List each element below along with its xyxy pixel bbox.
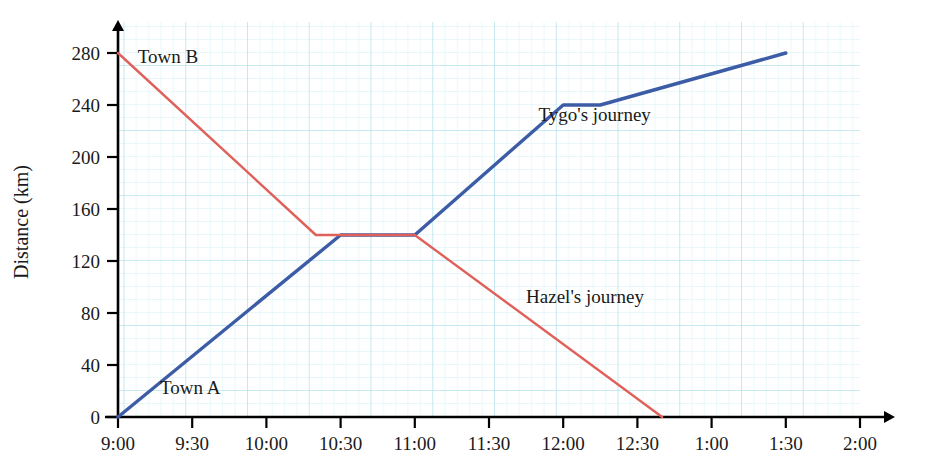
distance-time-chart: 04080120160200240280 9:009:3010:0010:301… xyxy=(0,0,925,472)
y-tick-label: 40 xyxy=(81,355,100,376)
plot-grid xyxy=(118,22,860,417)
y-axis-title: Distance (km) xyxy=(10,165,33,279)
y-tick-label: 120 xyxy=(72,251,101,272)
y-tick-label: 280 xyxy=(72,43,101,64)
x-tick-label: 1:30 xyxy=(769,433,803,454)
x-axis-ticks: 9:009:3010:0010:3011:0011:3012:0012:301:… xyxy=(101,417,877,454)
y-tick-label: 160 xyxy=(72,199,101,220)
x-tick-label: 9:30 xyxy=(175,433,209,454)
series-label: Tygo's journey xyxy=(538,104,651,125)
y-axis-ticks: 04080120160200240280 xyxy=(72,43,119,428)
y-tick-label: 200 xyxy=(72,147,101,168)
x-tick-label: 10:30 xyxy=(319,433,362,454)
chart-canvas: 04080120160200240280 9:009:3010:0010:301… xyxy=(0,0,925,472)
x-tick-label: 10:00 xyxy=(245,433,288,454)
town-b-label: Town B xyxy=(138,46,198,67)
x-tick-label: 2:00 xyxy=(843,433,877,454)
x-tick-label: 1:00 xyxy=(695,433,729,454)
x-tick-label: 12:30 xyxy=(616,433,659,454)
y-tick-label: 80 xyxy=(81,303,100,324)
x-tick-label: 9:00 xyxy=(101,433,135,454)
town-a-label: Town A xyxy=(160,377,221,398)
y-tick-label: 0 xyxy=(91,407,101,428)
x-tick-label: 11:30 xyxy=(468,433,511,454)
x-tick-label: 12:00 xyxy=(542,433,585,454)
x-tick-label: 11:00 xyxy=(394,433,437,454)
y-tick-label: 240 xyxy=(72,95,101,116)
series-label: Hazel's journey xyxy=(526,286,644,307)
